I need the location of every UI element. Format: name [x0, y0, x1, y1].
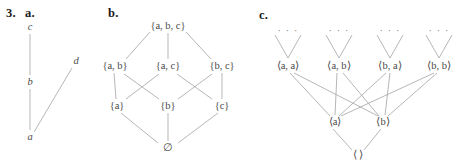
- node-a-c: c: [26, 22, 34, 33]
- node-c-a: ⟨a⟩: [327, 117, 343, 128]
- node-b-a: {a}: [108, 101, 126, 112]
- node-b-ac: {a, c}: [154, 61, 182, 72]
- node-b-bc: {b, c}: [208, 61, 236, 72]
- ellipsis-c-3: · · ·: [380, 25, 401, 36]
- node-b-empty-set: ∅: [162, 142, 175, 153]
- node-b-c: {c}: [213, 101, 231, 112]
- node-b-b: {b}: [159, 101, 177, 112]
- ellipsis-c-2: · · ·: [329, 25, 350, 36]
- node-c-aa: ⟨a, a⟩: [275, 61, 301, 72]
- node-b-ab: {a, b}: [101, 61, 129, 72]
- ellipsis-c-1: · · ·: [278, 25, 299, 36]
- node-b-abc: {a, b, c}: [149, 21, 187, 32]
- ellipsis-c-4: · · ·: [429, 25, 450, 36]
- node-c-ab: ⟨a, b⟩: [326, 61, 352, 72]
- node-a-d: d: [72, 56, 80, 67]
- node-c-ba: ⟨b, a⟩: [377, 61, 403, 72]
- node-c-empty-tuple: ⟨ ⟩: [351, 150, 365, 161]
- node-c-bb: ⟨b, b⟩: [426, 61, 453, 72]
- figure-canvas: 3. a. c b a d b. {a, b, c} {a, b} {a, c}…: [0, 0, 457, 165]
- node-a-b: b: [26, 77, 34, 88]
- node-c-b: ⟨b⟩: [375, 117, 391, 128]
- node-a-a: a: [26, 132, 34, 143]
